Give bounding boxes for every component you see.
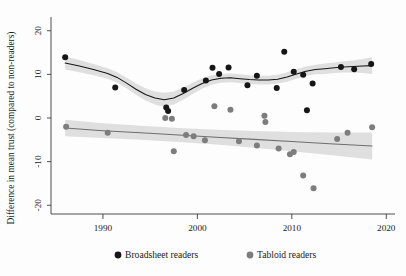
data-point xyxy=(63,124,69,130)
data-point xyxy=(244,82,250,88)
data-point xyxy=(162,115,168,121)
data-point xyxy=(334,136,340,142)
chart-figure: Difference in mean trust (compared to no… xyxy=(0,0,406,276)
data-point xyxy=(112,84,118,90)
data-point xyxy=(211,103,217,109)
legend-marker-broadsheet xyxy=(115,252,122,259)
data-point xyxy=(226,64,232,70)
legend-label-broadsheet: Broadsheet readers xyxy=(125,249,199,260)
data-point xyxy=(203,77,209,83)
data-point xyxy=(276,146,282,152)
data-point xyxy=(300,72,306,78)
data-point xyxy=(345,130,351,136)
data-point xyxy=(338,64,344,70)
data-point xyxy=(216,71,222,77)
data-point xyxy=(291,149,297,155)
legend-marker-tabloid xyxy=(247,252,254,259)
scatter-plot: Difference in mean trust (compared to no… xyxy=(0,0,406,276)
data-point xyxy=(62,54,68,60)
data-point xyxy=(300,173,306,179)
data-point xyxy=(368,61,374,67)
data-point xyxy=(281,49,287,55)
data-point xyxy=(165,108,171,114)
data-point xyxy=(262,119,268,125)
data-point xyxy=(227,107,233,113)
data-point xyxy=(171,148,177,154)
y-tick-label: 0 xyxy=(33,115,43,120)
x-tick-label: 2020 xyxy=(377,223,396,233)
data-point xyxy=(311,185,317,191)
data-point xyxy=(274,85,280,91)
data-point xyxy=(351,66,357,72)
x-tick-label: 1990 xyxy=(94,223,113,233)
data-point xyxy=(183,132,189,138)
x-tick-label: 2000 xyxy=(188,223,207,233)
data-point xyxy=(191,133,197,139)
data-point xyxy=(369,124,375,130)
data-point xyxy=(254,73,260,79)
data-point xyxy=(105,130,111,136)
data-point xyxy=(291,69,297,75)
data-point xyxy=(310,81,316,87)
data-point xyxy=(202,137,208,143)
y-tick-label: -10 xyxy=(33,155,43,168)
data-point xyxy=(261,113,267,119)
legend-label-tabloid: Tabloid readers xyxy=(257,249,317,260)
data-point xyxy=(181,87,187,93)
y-tick-label: 20 xyxy=(33,26,43,36)
x-tick-label: 2010 xyxy=(283,223,302,233)
data-point xyxy=(169,116,175,122)
data-point xyxy=(236,138,242,144)
y-tick-label: -20 xyxy=(33,199,43,212)
data-point xyxy=(304,107,310,113)
y-axis-label: Difference in mean trust (compared to no… xyxy=(6,32,17,225)
data-point xyxy=(254,142,260,148)
y-tick-label: 10 xyxy=(33,69,43,79)
data-point xyxy=(210,65,216,71)
